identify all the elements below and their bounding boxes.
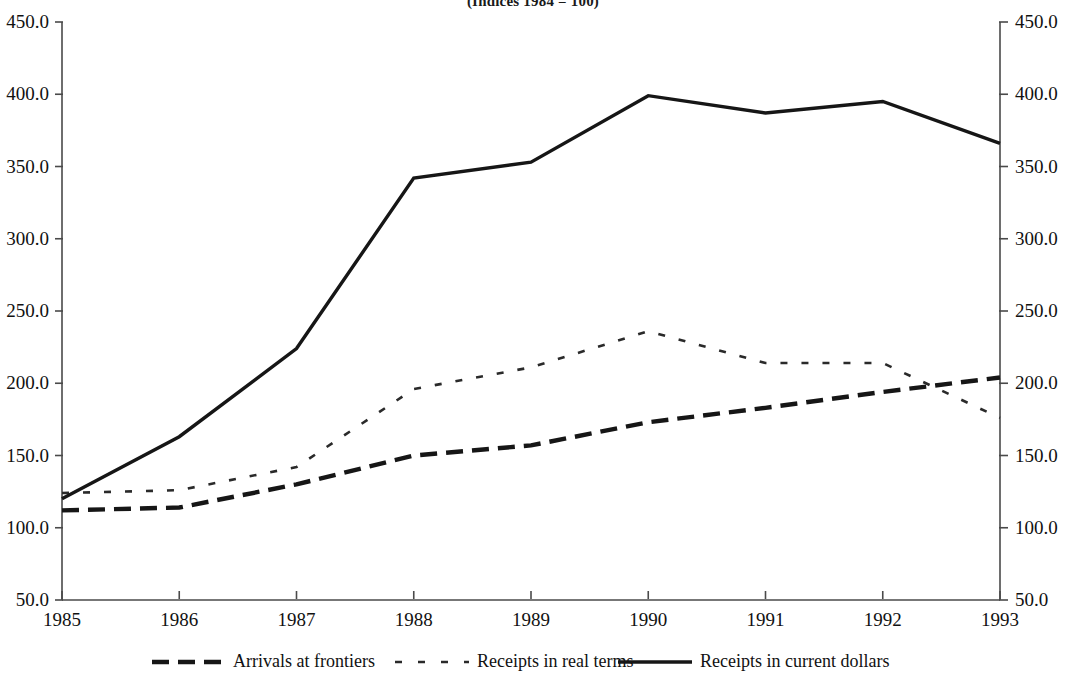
x-axis-tick-label: 1990 — [629, 609, 667, 630]
chart-figure: (Indices 1984 = 100) 50.0100.0150.0200.0… — [0, 0, 1066, 685]
x-axis-tick-label: 1989 — [512, 609, 550, 630]
x-axis-tick-label: 1992 — [864, 609, 902, 630]
y-axis-right: 50.0100.0150.0200.0250.0300.0350.0400.04… — [999, 11, 1058, 610]
legend-label: Receipts in real terms — [477, 651, 633, 671]
y-axis-left-tick-label: 150.0 — [6, 445, 49, 466]
y-axis-left-tick-label: 400.0 — [6, 83, 49, 104]
x-axis-tick-label: 1985 — [43, 609, 81, 630]
y-axis-left-tick-label: 50.0 — [16, 589, 49, 610]
chart-legend: Arrivals at frontiersReceipts in real te… — [152, 651, 889, 671]
series-line-dashed — [62, 377, 1000, 510]
y-axis-right-tick-label: 300.0 — [1015, 228, 1058, 249]
legend-label: Arrivals at frontiers — [233, 651, 375, 671]
x-axis-tick-label: 1988 — [395, 609, 433, 630]
y-axis-right-tick-label: 50.0 — [1015, 589, 1048, 610]
y-axis-right-tick-label: 250.0 — [1015, 300, 1058, 321]
y-axis-right-tick-label: 400.0 — [1015, 83, 1058, 104]
series-line-solid — [62, 96, 1000, 499]
y-axis-left-tick-label: 100.0 — [6, 517, 49, 538]
y-axis-left-tick-label: 250.0 — [6, 300, 49, 321]
x-axis-tick-label: 1986 — [160, 609, 198, 630]
y-axis-right-tick-label: 450.0 — [1015, 11, 1058, 32]
x-axis-tick-label: 1993 — [981, 609, 1019, 630]
series-layer — [62, 96, 1000, 511]
y-axis-left-tick-label: 200.0 — [6, 372, 49, 393]
series-line-dotted — [62, 331, 1000, 493]
x-axis-tick-label: 1991 — [747, 609, 785, 630]
x-axis: 198519861987198819891990199119921993 — [43, 591, 1019, 630]
y-axis-right-tick-label: 200.0 — [1015, 372, 1058, 393]
y-axis-right-tick-label: 350.0 — [1015, 156, 1058, 177]
y-axis-left: 50.0100.0150.0200.0250.0300.0350.0400.04… — [6, 11, 63, 610]
y-axis-right-tick-label: 150.0 — [1015, 445, 1058, 466]
y-axis-right-tick-label: 100.0 — [1015, 517, 1058, 538]
y-axis-left-tick-label: 300.0 — [6, 228, 49, 249]
legend-label: Receipts in current dollars — [700, 651, 889, 671]
y-axis-left-tick-label: 350.0 — [6, 156, 49, 177]
y-axis-left-tick-label: 450.0 — [6, 11, 49, 32]
x-axis-tick-label: 1987 — [278, 609, 316, 630]
chart-plot-area: 50.0100.0150.0200.0250.0300.0350.0400.04… — [0, 0, 1066, 685]
